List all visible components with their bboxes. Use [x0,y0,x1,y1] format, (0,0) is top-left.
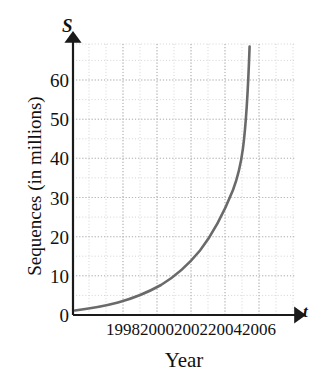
x-tick-label-2006: 2006 [242,321,276,338]
x-tick-label-2000: 2000 [140,321,174,338]
y-tick-label-60: 60 [50,71,69,90]
y-tick-label-30: 30 [50,188,69,207]
major-gridlines-vertical [123,44,259,314]
y-axis-symbol: S [62,16,73,35]
y-tick-label-10: 10 [50,266,69,285]
y-tick-label-50: 50 [50,110,69,129]
y-tick-label-0: 0 [60,306,70,325]
x-axis-symbol: t [303,303,308,320]
x-tick-label-1998: 1998 [106,321,140,338]
chart-figure: S t 0 10 20 30 40 50 60 1998 2000 2002 2… [0,0,324,391]
x-axis-title: Year [72,348,296,373]
x-tick-label-2002: 2002 [174,321,208,338]
y-tick-label-20: 20 [50,227,69,246]
y-axis-title: Sequences (in millions) [24,56,46,316]
data-curve-sequences [75,47,250,311]
x-tick-label-2004: 2004 [208,321,242,338]
y-tick-label-40: 40 [50,149,69,168]
